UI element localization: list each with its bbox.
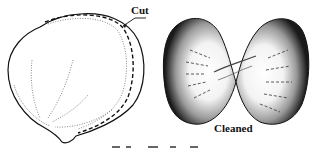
cut-label: Cut — [131, 5, 149, 16]
seed-diagram: Cut Cleaned — [0, 0, 318, 150]
left-seed-half — [163, 18, 236, 124]
cleaned-seed-drawing — [163, 11, 308, 124]
diagram-canvas — [0, 0, 318, 150]
cleaned-label: Cleaned — [214, 123, 253, 134]
whole-seed-drawing — [8, 14, 146, 143]
cropped-caption — [112, 146, 198, 148]
seed-outline — [8, 14, 144, 143]
right-seed-half — [236, 19, 309, 125]
